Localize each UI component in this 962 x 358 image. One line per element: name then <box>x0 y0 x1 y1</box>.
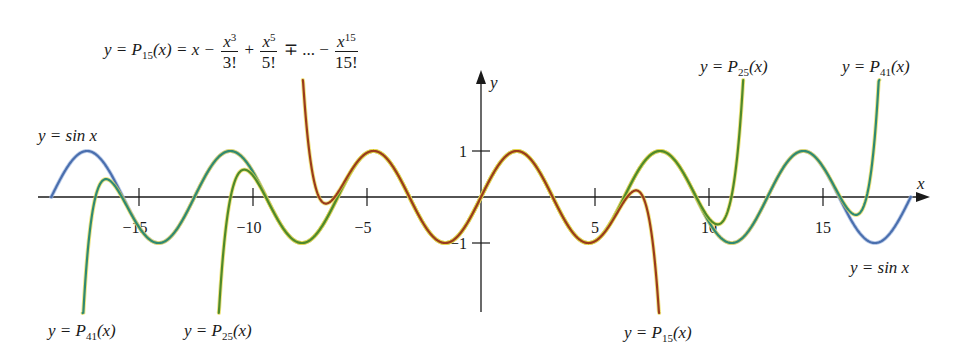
p41-label-bottom: y = P41(x) <box>48 322 116 342</box>
x-tick-label: −5 <box>354 219 371 236</box>
fraction-x15: x1515! <box>335 32 358 71</box>
formula-mid: (x) = x − <box>153 40 215 59</box>
fraction-x3: x33! <box>221 32 238 71</box>
fraction-x5: x55! <box>260 32 277 71</box>
plus-sign: + <box>245 40 255 59</box>
p15-formula-label: y = P15(x) = x − x33! + x55! ∓ ... − x15… <box>104 32 360 71</box>
x-tick-label: 15 <box>815 219 831 236</box>
sin-label-right: y = sin x <box>850 259 909 276</box>
formula-lhs: y = P <box>104 40 142 59</box>
p41-label-top: y = P41(x) <box>842 58 910 78</box>
p25-label-top: y = P25(x) <box>700 58 768 78</box>
p25-label-bottom: y = P25(x) <box>184 322 252 342</box>
axis-x-label: x <box>917 175 925 192</box>
y-axis-arrow-icon <box>476 70 486 84</box>
y-tick-label: 1 <box>459 143 467 160</box>
x-tick-label: 5 <box>591 219 599 236</box>
p15-label-bottom: y = P15(x) <box>624 324 692 344</box>
minus-plus-ellipsis: ∓ ... − <box>284 40 329 59</box>
x-axis-arrow-icon <box>916 192 930 202</box>
formula-sub: 15 <box>142 49 153 61</box>
x-tick-label: −10 <box>236 219 261 236</box>
sin-label-left: y = sin x <box>38 127 97 144</box>
axis-y-label: y <box>490 74 498 91</box>
